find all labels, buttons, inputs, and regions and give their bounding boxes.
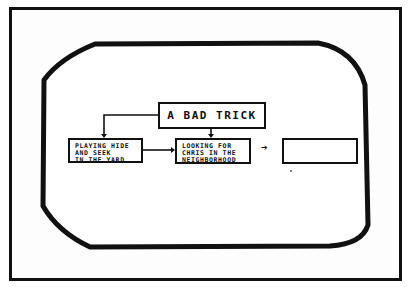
node-empty — [282, 138, 358, 164]
title-node: A BAD TRICK — [158, 102, 266, 129]
stray-dot — [290, 170, 292, 172]
arrow-right-icon: ➔ — [261, 141, 268, 154]
node-playing-hide-and-seek: PLAYING HIDE AND SEEK IN THE YARD — [68, 138, 143, 163]
node-looking-for-chris: LOOKING FOR CHRIS IN THE NEIGHBORHOOD — [175, 138, 251, 164]
